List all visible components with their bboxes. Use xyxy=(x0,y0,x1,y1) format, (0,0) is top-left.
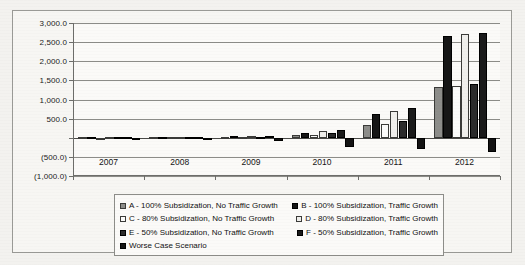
bar-group-2011 xyxy=(359,23,430,175)
y-axis-label: 2,500.0 xyxy=(40,38,67,47)
bar-B-2010 xyxy=(301,133,310,138)
bar-C-2011 xyxy=(381,124,390,137)
bar-E-2009 xyxy=(256,137,265,139)
x-axis-label-2011: 2011 xyxy=(384,157,402,167)
y-axis-label: 1,500.0 xyxy=(40,76,67,85)
bar-D-2007 xyxy=(105,137,114,139)
bar-A-2008 xyxy=(149,137,158,139)
plot-area xyxy=(73,23,500,176)
bar-F-2011 xyxy=(408,108,417,137)
bar-group-2008 xyxy=(145,23,216,175)
bar-B-2009 xyxy=(230,136,239,138)
bar-C-2008 xyxy=(167,137,176,139)
y-tick-mark xyxy=(69,80,73,81)
bar-W-2008 xyxy=(203,138,212,140)
legend-item-D[interactable]: D - 80% Subsidization, Traffic Growth xyxy=(296,215,438,223)
legend-label: C - 80% Subsidization, No Traffic Growth xyxy=(129,215,274,223)
bar-F-2010 xyxy=(337,130,346,138)
legend-item-F[interactable]: F - 50% Subsidization, Traffic Growth xyxy=(297,229,438,237)
bar-D-2009 xyxy=(247,136,256,138)
legend-swatch-D-icon xyxy=(296,216,302,222)
bar-groups xyxy=(74,23,500,175)
y-axis-label: (500.0) xyxy=(41,152,67,161)
legend-item-W[interactable]: Worse Case Scenario xyxy=(120,242,300,250)
x-tick-mark xyxy=(500,176,501,180)
x-axis-label-2012: 2012 xyxy=(455,157,474,167)
bar-A-2007 xyxy=(78,137,87,139)
legend-swatch-C-icon xyxy=(120,216,126,222)
legend-row: Worse Case Scenario xyxy=(120,240,438,254)
legend-swatch-E-icon xyxy=(120,230,126,236)
legend-swatch-B-icon xyxy=(292,203,298,209)
bar-C-2012 xyxy=(452,86,461,137)
legend: A - 100% Subsidization, No Traffic Growt… xyxy=(114,194,444,256)
x-tick-mark xyxy=(215,176,216,180)
bar-D-2011 xyxy=(390,111,399,138)
legend-label: F - 50% Subsidization, Traffic Growth xyxy=(306,229,438,237)
bar-B-2012 xyxy=(443,36,452,137)
bar-group-2012 xyxy=(430,23,501,175)
bar-A-2010 xyxy=(292,135,301,138)
legend-item-A[interactable]: A - 100% Subsidization, No Traffic Growt… xyxy=(120,202,292,210)
y-axis-label: 500.0 xyxy=(46,114,67,123)
bar-F-2012 xyxy=(479,33,488,138)
bar-E-2012 xyxy=(470,84,479,138)
bar-C-2009 xyxy=(238,137,247,139)
legend-swatch-A-icon xyxy=(120,203,126,209)
legend-label: Worse Case Scenario xyxy=(129,242,207,250)
legend-swatch-W-icon xyxy=(120,243,126,249)
bar-group-2010 xyxy=(288,23,359,175)
bar-A-2012 xyxy=(434,87,443,137)
y-tick-mark xyxy=(69,42,73,43)
legend-item-B[interactable]: B - 100% Subsidization, Traffic Growth xyxy=(292,202,438,210)
y-tick-mark xyxy=(69,100,73,101)
bar-B-2011 xyxy=(372,114,381,138)
bar-W-2011 xyxy=(417,138,426,149)
bar-E-2007 xyxy=(114,137,123,139)
y-tick-mark xyxy=(69,138,73,139)
bar-C-2007 xyxy=(96,138,105,140)
legend-item-C[interactable]: C - 80% Subsidization, No Traffic Growth xyxy=(120,215,296,223)
bar-F-2007 xyxy=(123,137,132,139)
bar-B-2007 xyxy=(87,137,96,139)
bar-group-2009 xyxy=(216,23,287,175)
y-axis-label: 2,000.0 xyxy=(40,57,67,66)
legend-row: A - 100% Subsidization, No Traffic Growt… xyxy=(120,199,438,213)
x-axis-label-2007: 2007 xyxy=(99,157,118,167)
bar-W-2007 xyxy=(132,138,141,140)
x-tick-mark xyxy=(73,176,74,180)
bar-W-2010 xyxy=(345,138,354,147)
y-axis-label: (1,000.0) xyxy=(34,172,67,181)
bar-D-2008 xyxy=(176,137,185,139)
bar-A-2009 xyxy=(221,137,230,139)
y-tick-mark xyxy=(69,61,73,62)
bar-D-2010 xyxy=(319,131,328,138)
bar-W-2009 xyxy=(274,138,283,141)
chart-figure: 3,000.02,500.02,000.01,500.01,000.0500.0… xyxy=(0,0,525,265)
bar-group-2007 xyxy=(74,23,145,175)
bar-F-2008 xyxy=(194,137,203,139)
bar-F-2009 xyxy=(265,136,274,138)
y-tick-mark xyxy=(69,119,73,120)
x-tick-mark xyxy=(429,176,430,180)
legend-label: D - 80% Subsidization, Traffic Growth xyxy=(305,215,438,223)
bar-E-2011 xyxy=(399,121,408,138)
x-axis-label-2009: 2009 xyxy=(241,157,260,167)
bar-A-2011 xyxy=(363,125,372,138)
bar-W-2012 xyxy=(488,138,497,152)
x-tick-mark xyxy=(358,176,359,180)
figure-border: 3,000.02,500.02,000.01,500.01,000.0500.0… xyxy=(12,10,512,253)
y-tick-mark xyxy=(69,23,73,24)
x-axis-label-2008: 2008 xyxy=(170,157,189,167)
bar-B-2008 xyxy=(158,137,167,139)
x-tick-mark xyxy=(287,176,288,180)
legend-item-E[interactable]: E - 50% Subsidization, No Traffic Growth xyxy=(120,229,297,237)
legend-label: B - 100% Subsidization, Traffic Growth xyxy=(301,202,438,210)
plot-wrapper: 3,000.02,500.02,000.01,500.01,000.0500.0… xyxy=(73,23,500,176)
bar-D-2012 xyxy=(461,34,470,137)
y-tick-mark xyxy=(69,157,73,158)
legend-row: E - 50% Subsidization, No Traffic Growth… xyxy=(120,226,438,240)
y-axis-label: 3,000.0 xyxy=(40,19,67,28)
legend-swatch-F-icon xyxy=(297,230,303,236)
bar-C-2010 xyxy=(310,135,319,137)
